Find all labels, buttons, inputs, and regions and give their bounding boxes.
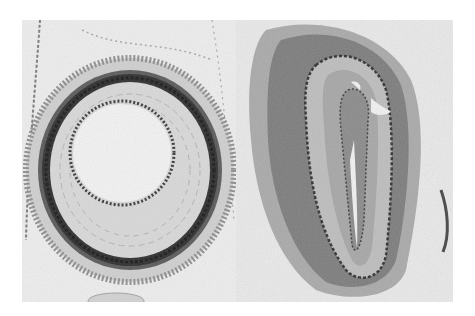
panel-artery-cross-section [22,20,236,302]
artery-illustration [22,20,236,302]
micrograph-figure [22,20,453,302]
collapsed-vessel-illustration [236,20,453,302]
panel-collapsed-vessel [236,20,453,302]
